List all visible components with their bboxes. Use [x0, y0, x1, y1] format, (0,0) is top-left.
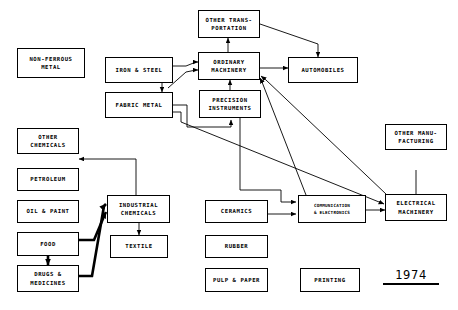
edge-electrical-to-ordinary	[261, 76, 386, 194]
node-oil-and-paint[interactable]: OIL & PAINT	[17, 200, 79, 223]
node-rubber[interactable]: RUBBER	[205, 235, 268, 258]
node-printing[interactable]: PRINTING	[300, 268, 360, 292]
connector-layer	[0, 0, 458, 310]
node-pulp-and-paper[interactable]: PULP & PAPER	[205, 268, 268, 292]
edge-iron-to-ordinary	[173, 62, 198, 66]
node-industrial-chemicals[interactable]: INDUSTRIAL CHEMICALS	[107, 195, 170, 223]
edge-transportation-to-automobiles	[260, 24, 318, 57]
node-precision-instruments[interactable]: PRECISION INSTRUMENTS	[199, 90, 261, 118]
node-ceramics[interactable]: CERAMICS	[205, 200, 268, 223]
node-textile[interactable]: TEXTILE	[110, 235, 168, 258]
edge-industrial-to-otherchem	[79, 159, 136, 195]
diagram-canvas: NON-FERROUS METAL IRON & STEEL FABRIC ME…	[0, 0, 458, 310]
node-other-transportation[interactable]: OTHER TRANS- PORTATION	[198, 10, 260, 38]
node-communication-and-electronics[interactable]: COMMUNICATION & ELECTRONICS	[298, 195, 366, 223]
node-other-manufacturing[interactable]: OTHER MANU- FACTURING	[385, 124, 447, 150]
node-automobiles[interactable]: AUTOMOBILES	[288, 57, 358, 83]
year-underline	[383, 283, 439, 285]
node-fabric-metal[interactable]: FABRIC METAL	[105, 92, 173, 118]
node-drugs-and-medicines[interactable]: DRUGS & MEDICINES	[17, 265, 79, 292]
year-label-group: 1974	[383, 268, 439, 285]
node-iron-and-steel[interactable]: IRON & STEEL	[105, 57, 173, 83]
node-electrical-machinery[interactable]: ELECTRICAL MACHINERY	[385, 194, 447, 221]
node-petroleum[interactable]: PETROLEUM	[17, 168, 79, 191]
node-non-ferrous-metal[interactable]: NON-FERROUS METAL	[17, 48, 85, 78]
node-food[interactable]: FOOD	[17, 232, 79, 256]
node-ordinary-machinery[interactable]: ORDINARY MACHINERY	[198, 52, 260, 80]
node-other-chemicals[interactable]: OTHER CHEMICALS	[17, 128, 79, 154]
year-label: 1974	[395, 268, 427, 282]
